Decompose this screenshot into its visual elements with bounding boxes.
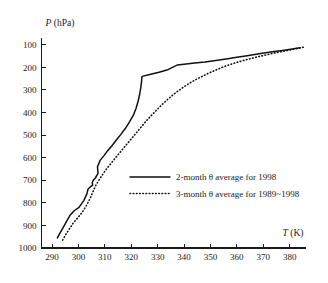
x-tick-label: 350 <box>204 252 218 262</box>
axes <box>42 38 306 248</box>
legend-label-1: 2-month θ average for 1998 <box>176 172 277 182</box>
x-tick-label: 340 <box>177 252 191 262</box>
chart-legend: 2-month θ average for 19983-month θ aver… <box>130 172 300 199</box>
x-tick-label: 290 <box>45 252 59 262</box>
x-axis-title-var: T <box>283 228 289 238</box>
y-tick-label: 600 <box>23 153 37 163</box>
x-tick-label: 300 <box>72 252 86 262</box>
x-tick-label: 380 <box>283 252 297 262</box>
x-tick-label: 360 <box>230 252 244 262</box>
x-tick-label: 320 <box>125 252 139 262</box>
y-tick-label: 100 <box>23 40 37 50</box>
legend-label-2: 3-month θ average for 1989~1998 <box>176 189 300 199</box>
y-axis-title: P(hPa) <box>45 18 75 29</box>
data-series <box>57 47 304 240</box>
x-axis-title: T(K) <box>283 228 304 239</box>
series-line-2 <box>63 47 305 240</box>
chart-canvas: 1002003004005006007008009001000290300310… <box>0 0 328 283</box>
y-tick-label: 700 <box>23 175 37 185</box>
x-tick-label: 370 <box>257 252 271 262</box>
y-tick-label: 800 <box>23 198 37 208</box>
x-axis-title-unit: (K) <box>290 228 303 239</box>
axis-ticks <box>42 45 290 248</box>
y-tick-label: 300 <box>23 85 37 95</box>
y-tick-label: 200 <box>23 63 37 73</box>
y-axis-title-unit: (hPa) <box>54 18 75 29</box>
series-line-1 <box>57 48 300 238</box>
axis-titles: P(hPa)T(K) <box>45 18 304 239</box>
y-tick-label: 500 <box>23 130 37 140</box>
y-tick-label: 1000 <box>19 243 38 253</box>
x-tick-label: 330 <box>151 252 165 262</box>
x-tick-label: 310 <box>98 252 112 262</box>
y-axis-title-var: P <box>45 18 52 28</box>
y-tick-label: 400 <box>23 108 37 118</box>
y-tick-label: 900 <box>23 221 37 231</box>
axis-frame <box>42 38 306 248</box>
theta-profile-chart: 1002003004005006007008009001000290300310… <box>0 0 328 283</box>
